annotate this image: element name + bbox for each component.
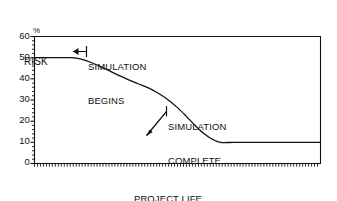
chart-vector-layer — [0, 0, 337, 201]
y-axis-major-ticks — [31, 37, 35, 164]
annotation-complete-arrow — [146, 107, 167, 137]
plot-frame — [35, 37, 321, 164]
risk-curve — [35, 58, 321, 143]
annotation-begins-arrow — [73, 47, 87, 57]
risk-vs-project-life-cycle-chart: % RISK 60 50 40 30 20 10 0 SIMULATION BE… — [0, 0, 337, 201]
